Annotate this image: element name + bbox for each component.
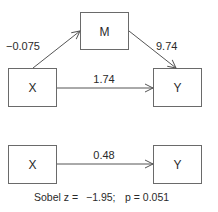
edge-x-to-y-label: 1.74 [93, 73, 114, 85]
mediation-diagram: M X Y −0.075 9.74 1.74 X Y 0.48 [0, 0, 218, 212]
node-y-total-label: Y [173, 158, 181, 172]
sobel-caption: Sobel z = −1.95; p = 0.051 [34, 191, 169, 203]
node-m-label: M [100, 25, 110, 39]
node-x-total-label: X [28, 158, 36, 172]
sobel-label: Sobel z = [34, 191, 78, 203]
sobel-value: −1.95; [86, 191, 116, 203]
node-y-label: Y [173, 81, 181, 95]
edge-x-to-m-label: −0.075 [6, 40, 40, 52]
edge-x-to-y-total-label: 0.48 [93, 149, 114, 161]
node-x-total: X [9, 146, 57, 184]
node-y-total: Y [154, 146, 202, 184]
p-value: p = 0.051 [125, 191, 169, 203]
edge-x-to-m-arrow [33, 31, 80, 68]
node-y: Y [154, 69, 202, 107]
node-x-label: X [28, 81, 36, 95]
node-x: X [9, 69, 57, 107]
edge-m-to-y-label: 9.74 [156, 40, 177, 52]
node-m: M [81, 13, 129, 50]
bottom-panel: X Y 0.48 [9, 146, 202, 184]
top-panel: M X Y −0.075 9.74 1.74 [6, 13, 202, 107]
